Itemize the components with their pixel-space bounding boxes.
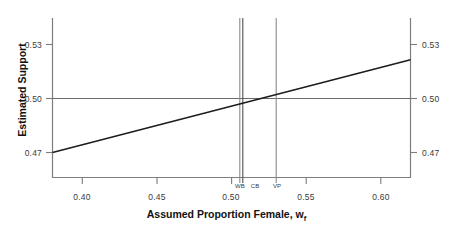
y-tick-left-053: 0.53 (16, 40, 42, 50)
x-axis-title: Assumed Proportion Female, wf (0, 208, 453, 223)
reference-label-cb: CB (243, 183, 267, 189)
x-tick-055: 0.55 (286, 192, 326, 202)
y-tick-right-053: 0.53 (422, 40, 450, 50)
y-tick-right-047: 0.47 (422, 148, 450, 158)
x-tick-045: 0.45 (137, 192, 177, 202)
x-axis-title-subscript: f (304, 214, 307, 223)
support-trend-line (53, 60, 411, 153)
y-tick-left-047: 0.47 (16, 148, 42, 158)
x-tick-050: 0.50 (211, 192, 251, 202)
y-axis-right-ticks (411, 45, 418, 153)
reference-label-vp: VP (265, 183, 289, 189)
chart-figure: Estimated Support Assumed Proportion Fem… (0, 0, 453, 234)
y-tick-left-050: 0.50 (16, 94, 42, 104)
y-tick-right-050: 0.50 (422, 94, 450, 104)
x-axis-title-main: Assumed Proportion Female, w (147, 208, 304, 220)
x-tick-040: 0.40 (62, 192, 102, 202)
y-axis-left-ticks (46, 45, 53, 153)
x-tick-060: 0.60 (361, 192, 401, 202)
